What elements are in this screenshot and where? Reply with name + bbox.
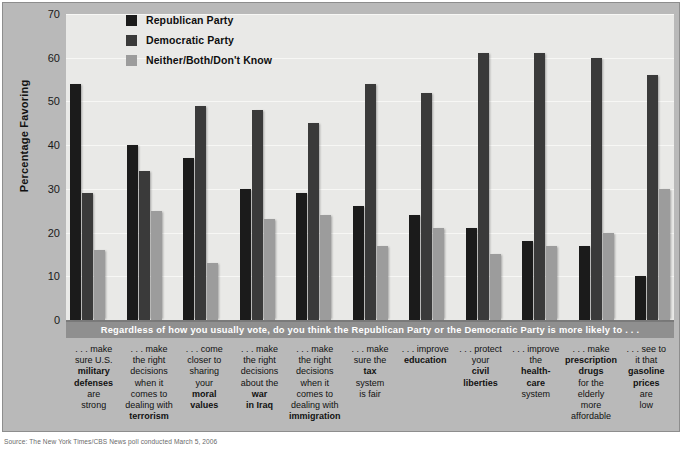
caption-line: are	[640, 389, 653, 399]
bar-group	[635, 14, 670, 320]
bar	[421, 93, 432, 320]
bar-group	[240, 14, 275, 320]
caption-line: civil	[472, 366, 490, 376]
caption-line: . . . see to	[627, 344, 667, 354]
caption-line: when it	[135, 378, 164, 388]
bar	[296, 193, 307, 320]
chart-figure: 706050403020100 Percentage Favoring Repu…	[0, 0, 683, 451]
y-axis-tick: 10	[34, 271, 60, 282]
caption-line: values	[190, 400, 218, 410]
caption-line: strong	[81, 400, 106, 410]
caption-line: decisions	[296, 366, 334, 376]
y-axis-tick: 40	[34, 140, 60, 151]
caption-line: it that	[635, 355, 657, 365]
bar	[207, 263, 218, 320]
caption-line: immigration	[289, 411, 341, 421]
caption-line: sharing	[189, 366, 219, 376]
category-captions: . . . makesure U.S.militarydefensesarest…	[66, 340, 674, 428]
caption-line: military	[78, 366, 110, 376]
bar-group	[70, 14, 105, 320]
bar-group	[409, 14, 444, 320]
category-caption: . . . improvethehealth-caresystem	[508, 340, 563, 428]
bar	[635, 276, 646, 320]
caption-line: . . . make	[241, 344, 278, 354]
caption-line: are	[87, 389, 100, 399]
bar	[591, 58, 602, 320]
caption-line: liberties	[463, 378, 498, 388]
bar	[365, 84, 376, 320]
caption-line: health-	[521, 366, 551, 376]
y-axis-tick: 20	[34, 227, 60, 238]
bar	[151, 211, 162, 320]
bar-group	[466, 14, 501, 320]
caption-line: is fair	[359, 389, 381, 399]
y-axis-label: Percentage Favoring	[18, 71, 30, 201]
bar	[139, 171, 150, 320]
caption-line: care	[526, 378, 545, 388]
caption-line: . . . make	[351, 344, 388, 354]
bar-group	[522, 14, 557, 320]
bar	[320, 215, 331, 320]
category-caption: . . . makesure thetaxsystemis fair	[342, 340, 397, 428]
bar	[490, 254, 501, 320]
source-note: Source: The New York Times/CBS News poll…	[4, 438, 217, 445]
caption-line: in Iraq	[246, 400, 273, 410]
caption-line: dealing with	[125, 400, 173, 410]
category-caption: . . . makethe rightdecisionswhen itcomes…	[121, 340, 176, 428]
y-axis-tick: 70	[34, 9, 60, 20]
bar	[127, 145, 138, 320]
bar-group	[127, 14, 162, 320]
caption-line: . . . improve	[512, 344, 559, 354]
category-caption: . . . makesure U.S.militarydefensesarest…	[66, 340, 121, 428]
bar	[308, 123, 319, 320]
caption-line: dealing with	[291, 400, 339, 410]
bar-group	[579, 14, 614, 320]
bar	[433, 228, 444, 320]
bar	[659, 189, 670, 320]
caption-line: . . . make	[75, 344, 112, 354]
caption-line: education	[404, 355, 447, 365]
bar	[466, 228, 477, 320]
bar	[534, 53, 545, 320]
caption-line: low	[640, 400, 654, 410]
caption-line: comes to	[296, 389, 333, 399]
caption-line: . . . make	[573, 344, 610, 354]
caption-line: when it	[300, 378, 329, 388]
caption-line: for the elderly	[578, 378, 605, 399]
bar	[195, 106, 206, 320]
caption-line: the	[530, 355, 543, 365]
caption-line: system	[522, 389, 551, 399]
bar	[522, 241, 533, 320]
y-axis-tick: 60	[34, 52, 60, 63]
caption-line: more	[581, 400, 602, 410]
category-caption: . . . makethe rightdecisionsabout thewar…	[232, 340, 287, 428]
caption-line: defenses	[74, 378, 113, 388]
y-axis: 706050403020100	[28, 14, 60, 320]
bar-group	[183, 14, 218, 320]
caption-line: prices	[633, 378, 660, 388]
bar	[70, 84, 81, 320]
bar	[377, 246, 388, 320]
caption-line: prescription	[565, 355, 617, 365]
category-caption: . . . protectyourcivilliberties	[453, 340, 508, 428]
bar	[252, 110, 263, 320]
bar	[94, 250, 105, 320]
caption-line: drugs	[579, 366, 604, 376]
caption-line: . . . come	[186, 344, 223, 354]
caption-line: your	[195, 378, 213, 388]
caption-line: affordable	[571, 411, 611, 421]
caption-line: decisions	[130, 366, 168, 376]
caption-line: war	[252, 389, 268, 399]
question-banner: Regardless of how you usually vote, do y…	[66, 322, 674, 338]
caption-line: comes to	[131, 389, 168, 399]
caption-line: . . . make	[130, 344, 167, 354]
bar	[546, 246, 557, 320]
caption-line: the right	[298, 355, 331, 365]
caption-line: tax	[363, 366, 376, 376]
bar	[82, 193, 93, 320]
caption-line: . . . improve	[402, 344, 449, 354]
caption-line: . . . protect	[459, 344, 502, 354]
caption-line: system	[356, 378, 385, 388]
category-caption: . . . makeprescriptiondrugsfor the elder…	[563, 340, 618, 428]
category-caption: . . . see toit thatgasolinepricesarelow	[619, 340, 674, 428]
